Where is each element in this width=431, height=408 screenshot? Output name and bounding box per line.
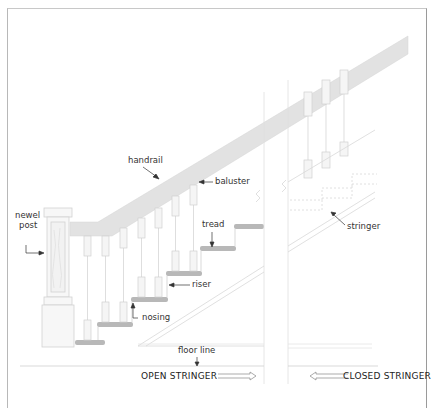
newel-post-shape — [42, 208, 74, 347]
handrail-shape — [70, 36, 408, 236]
label-floor-line: floor line — [178, 346, 215, 355]
label-tread: tread — [202, 220, 224, 229]
closed-stringer-shape — [256, 130, 377, 252]
label-newel-line1: newel — [15, 211, 40, 220]
label-newel-line2: post — [19, 221, 37, 230]
balusters-closed — [304, 70, 348, 178]
label-nosing: nosing — [142, 313, 170, 322]
caption-open-stringer: OPEN STRINGER — [141, 371, 217, 381]
label-baluster: baluster — [215, 177, 250, 186]
label-stringer: stringer — [347, 222, 380, 231]
label-riser: riser — [192, 280, 211, 289]
direction-arrows — [218, 372, 348, 380]
label-handrail: handrail — [128, 156, 163, 165]
caption-closed-stringer: CLOSED STRINGER — [343, 371, 431, 381]
